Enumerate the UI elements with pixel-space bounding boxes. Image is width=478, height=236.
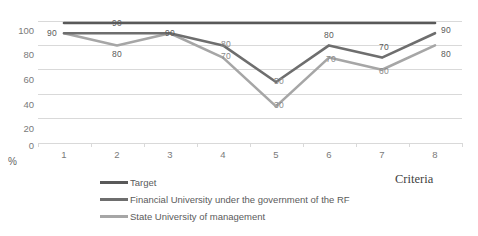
y-tick-label-40: 40 bbox=[4, 100, 34, 110]
data-label-fin-2: 90 bbox=[112, 19, 122, 28]
legend-label-financial-university: Financial University under the governmen… bbox=[130, 194, 350, 205]
x-tick-label-5: 5 bbox=[261, 149, 291, 161]
y-tick-label-100: 100 bbox=[4, 26, 34, 36]
data-label-state-7: 60 bbox=[379, 67, 389, 76]
x-tick-label-7: 7 bbox=[367, 149, 397, 161]
data-label-state-2: 80 bbox=[112, 50, 122, 59]
plot-area: 90 90 90 80 50 80 70 90 80 70 30 70 60 8… bbox=[38, 10, 462, 146]
data-label-fin-3: 90 bbox=[165, 29, 175, 38]
legend-item-target[interactable]: Target bbox=[100, 174, 430, 191]
data-label-state-6: 70 bbox=[326, 55, 336, 64]
data-label-fin-1: 90 bbox=[47, 29, 57, 38]
legend-label-target: Target bbox=[130, 177, 156, 188]
data-label-state-4: 70 bbox=[221, 52, 231, 61]
legend-item-financial-university[interactable]: Financial University under the governmen… bbox=[100, 191, 430, 208]
data-label-fin-8: 90 bbox=[441, 26, 451, 35]
data-label-fin-4: 80 bbox=[221, 40, 231, 49]
y-axis-title: % bbox=[8, 156, 17, 168]
x-tick-label-8: 8 bbox=[420, 149, 450, 161]
y-tick-label-0: 0 bbox=[4, 141, 34, 151]
legend-swatch-icon-financial-university bbox=[100, 198, 128, 201]
y-tick-label-60: 60 bbox=[4, 75, 34, 85]
x-tick-label-4: 4 bbox=[208, 149, 238, 161]
data-label-state-5: 30 bbox=[274, 101, 284, 110]
y-tick-label-20: 20 bbox=[4, 124, 34, 134]
data-series bbox=[38, 10, 462, 146]
x-tick-label-3: 3 bbox=[155, 149, 185, 161]
legend-label-state-university: State University of management bbox=[130, 211, 265, 222]
x-axis: 1 2 3 4 5 6 7 8 bbox=[38, 149, 462, 163]
line-chart: 100 80 60 40 20 0 bbox=[0, 0, 478, 236]
legend-item-state-university[interactable]: State University of management bbox=[100, 208, 430, 225]
x-tick-label-2: 2 bbox=[102, 149, 132, 161]
x-tick-label-1: 1 bbox=[49, 149, 79, 161]
data-label-fin-7: 70 bbox=[379, 43, 389, 52]
x-tick-label-6: 6 bbox=[314, 149, 344, 161]
y-tick-label-80: 80 bbox=[4, 50, 34, 60]
data-label-fin-5: 50 bbox=[274, 77, 284, 86]
y-axis: 100 80 60 40 20 0 bbox=[0, 10, 34, 146]
legend-swatch-icon-target bbox=[100, 181, 128, 184]
legend: Target Financial University under the go… bbox=[100, 174, 430, 225]
data-label-state-8: 80 bbox=[441, 50, 451, 59]
data-label-fin-6: 80 bbox=[324, 31, 334, 40]
legend-swatch-icon-state-university bbox=[100, 215, 128, 218]
